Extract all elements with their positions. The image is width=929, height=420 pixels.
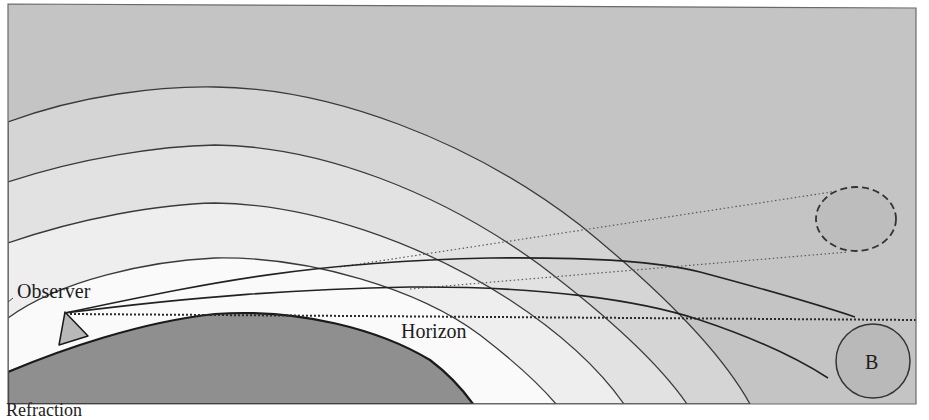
observer-label: Observer	[17, 280, 91, 302]
object-b-label: B	[865, 351, 878, 373]
figure-caption-partial: Refraction	[6, 400, 82, 420]
apparent-object-position	[816, 187, 896, 251]
horizon-label: Horizon	[401, 320, 467, 342]
